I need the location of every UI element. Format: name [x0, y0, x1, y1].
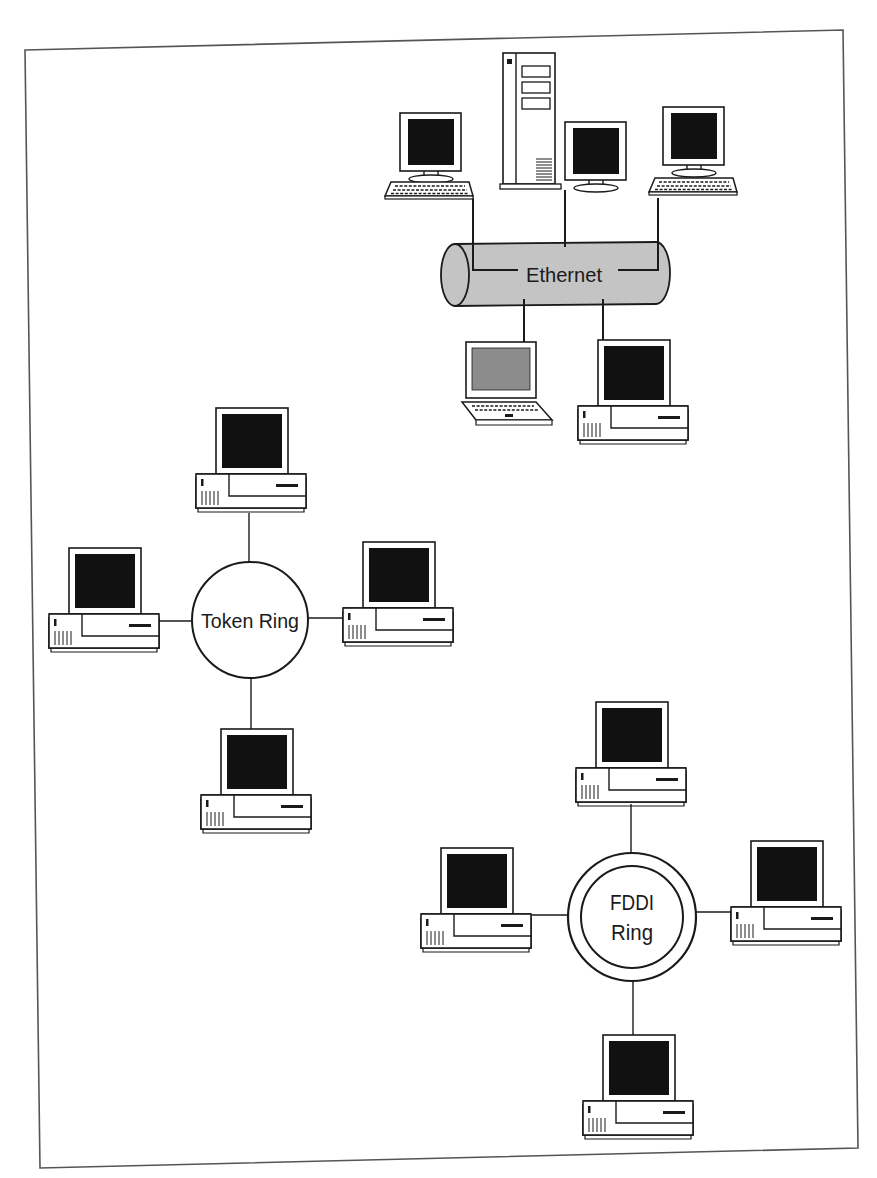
token-ring-label: Token Ring — [201, 609, 299, 632]
page-frame — [25, 30, 858, 1168]
fddi-inner-ring — [581, 866, 683, 968]
ethernet-label: Ethernet — [526, 263, 602, 286]
keyboard-icon — [649, 178, 737, 195]
fddi-label-line2: Ring — [611, 920, 653, 945]
fddi-label-line1: FDDI — [610, 890, 654, 915]
network-diagram: Ethernet — [0, 0, 877, 1178]
keyboard-icon — [385, 182, 473, 199]
ethernet-tower-server — [500, 53, 561, 189]
